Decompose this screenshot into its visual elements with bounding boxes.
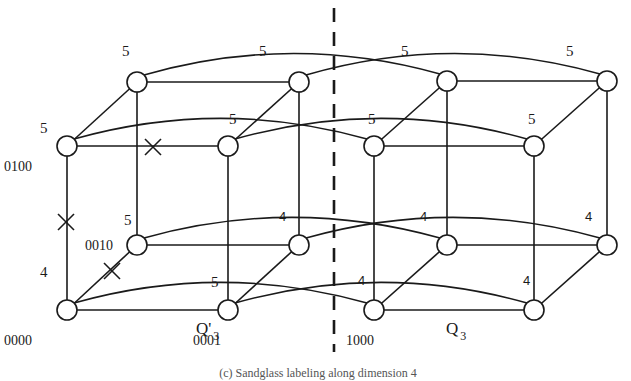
node-weight-labels: 5555555554444544: [40, 43, 592, 290]
weight-label: 5: [124, 212, 132, 228]
cube-edge: [374, 81, 447, 146]
address-label: 1000: [346, 333, 374, 348]
node-l-tbl: [127, 72, 147, 92]
node-address-labels: 01000010000000011000: [4, 159, 374, 348]
node-r-bfr: [524, 300, 544, 320]
sandglass-hypercube-diagram: 5555555554444544 01000010000000011000 Q'…: [0, 0, 631, 381]
weight-label: 5: [566, 43, 574, 59]
cube-edge: [228, 245, 299, 310]
weight-label: 4: [420, 209, 427, 224]
weight-label: 5: [122, 43, 130, 59]
cube-edge: [67, 245, 137, 310]
weight-label: 5: [40, 120, 48, 136]
cube-edge: [534, 245, 607, 310]
node-l-bfl: [57, 300, 77, 320]
node-l-bfr: [218, 300, 238, 320]
weight-label: 4: [358, 273, 365, 288]
fault-x-icon: [58, 214, 74, 230]
node-r-bbr: [597, 235, 617, 255]
node-r-tfr: [524, 136, 544, 156]
hypercube-nodes: [57, 71, 617, 320]
dimension-4-links: [74, 54, 600, 303]
cube-edge: [228, 82, 299, 146]
node-r-tfl: [364, 136, 384, 156]
weight-label: 5: [229, 111, 237, 127]
cube-edge: [374, 245, 447, 310]
figure-caption: (c) Sandglass labeling along dimension 4: [219, 366, 417, 380]
weight-label: 4: [279, 209, 286, 224]
weight-label: 4: [523, 273, 530, 288]
node-r-tbl: [437, 71, 457, 91]
cube-label-right: Q3: [446, 319, 466, 343]
weight-label: 5: [528, 111, 536, 127]
node-r-bfl: [364, 300, 384, 320]
node-l-bbl: [127, 235, 147, 255]
address-label: 0010: [85, 238, 113, 253]
node-r-bbl: [437, 235, 457, 255]
weight-label: 4: [585, 209, 592, 224]
address-label: 0100: [4, 159, 32, 174]
node-l-bbr: [289, 235, 309, 255]
subcube-labels: Q'3Q3: [196, 319, 466, 343]
cube-edge: [534, 81, 607, 146]
node-l-tbr: [289, 72, 309, 92]
cube-edge: [67, 82, 137, 146]
weight-label: 4: [40, 264, 48, 280]
weight-label: 5: [368, 111, 376, 127]
faulty-link-markers: [58, 139, 161, 279]
node-r-tbr: [597, 71, 617, 91]
weight-label: 5: [401, 43, 409, 59]
node-l-tfl: [57, 136, 77, 156]
fault-x-icon: [104, 263, 120, 279]
address-label: 0000: [4, 333, 32, 348]
node-l-tfr: [218, 136, 238, 156]
weight-label: 5: [211, 274, 219, 290]
weight-label: 5: [259, 43, 267, 59]
fault-x-icon: [145, 139, 161, 155]
